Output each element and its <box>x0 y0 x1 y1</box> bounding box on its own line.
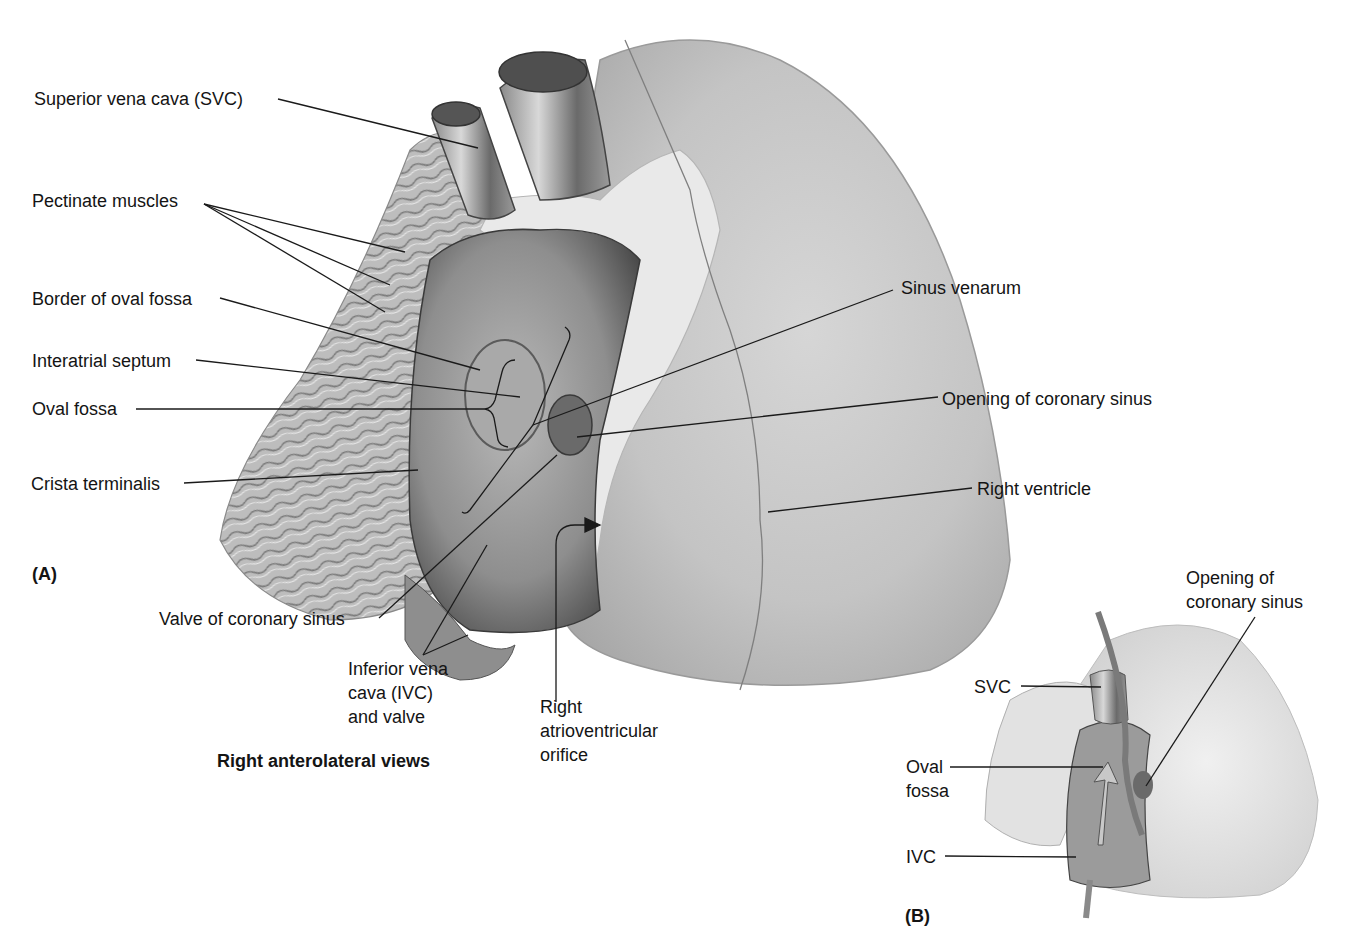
label-b-oval-fossa-line1: Oval <box>906 755 943 779</box>
label-inferior-vena-cava-line1: Inferior vena <box>348 657 448 681</box>
label-inferior-vena-cava-line3: and valve <box>348 705 425 729</box>
label-interatrial-septum: Interatrial septum <box>32 349 171 373</box>
label-right-ventricle: Right ventricle <box>977 477 1091 501</box>
label-right-av-orifice-line3: orifice <box>540 743 588 767</box>
panel-label-a: (A) <box>32 564 57 585</box>
label-pectinate-muscles: Pectinate muscles <box>32 189 178 213</box>
label-right-av-orifice-line1: Right <box>540 695 582 719</box>
heart-illustration <box>0 0 1346 946</box>
panel-label-b: (B) <box>905 906 930 927</box>
label-sinus-venarum: Sinus venarum <box>901 276 1021 300</box>
label-valve-of-coronary-sinus: Valve of coronary sinus <box>159 607 345 631</box>
panel-a-heart <box>220 40 1010 690</box>
label-b-opening-line1: Opening of <box>1186 566 1274 590</box>
label-crista-terminalis: Crista terminalis <box>31 472 160 496</box>
label-inferior-vena-cava-line2: cava (IVC) <box>348 681 433 705</box>
label-opening-of-coronary-sinus: Opening of coronary sinus <box>942 387 1152 411</box>
figure-caption: Right anterolateral views <box>217 751 430 772</box>
label-b-ivc: IVC <box>906 845 936 869</box>
panel-b-heart <box>985 612 1318 918</box>
label-superior-vena-cava: Superior vena cava (SVC) <box>34 87 243 111</box>
label-b-oval-fossa-line2: fossa <box>906 779 949 803</box>
label-b-svc: SVC <box>974 675 1011 699</box>
label-oval-fossa: Oval fossa <box>32 397 117 421</box>
label-b-opening-line2: coronary sinus <box>1186 590 1303 614</box>
label-border-of-oval-fossa: Border of oval fossa <box>32 287 192 311</box>
label-right-av-orifice-line2: atrioventricular <box>540 719 658 743</box>
heart-anatomy-figure: Superior vena cava (SVC) Pectinate muscl… <box>0 0 1346 946</box>
